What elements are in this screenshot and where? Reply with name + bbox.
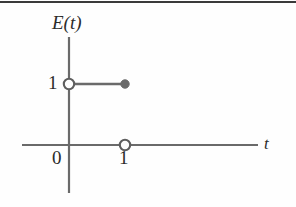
marker-open-circle-0-1	[64, 79, 74, 89]
y-axis-label: E(t)	[52, 13, 82, 32]
x-axis-label: t	[264, 135, 269, 152]
chart-canvas	[0, 0, 296, 207]
chart-figure: E(t) t 1 0 1	[0, 0, 296, 207]
y-tick-label-1: 1	[48, 73, 58, 92]
marker-filled-circle-1-1	[121, 80, 129, 88]
x-tick-label-1: 1	[119, 148, 129, 167]
origin-label: 0	[52, 148, 62, 167]
